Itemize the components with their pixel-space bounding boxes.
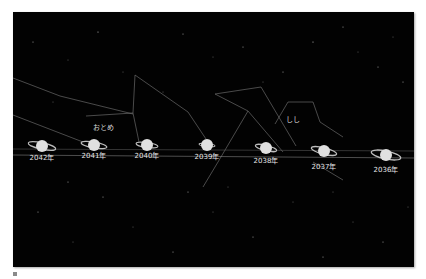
year-label-2040: 2040年 xyxy=(135,152,160,160)
constellation-lines xyxy=(13,75,343,187)
year-label-2041: 2041年 xyxy=(82,152,107,160)
year-label-2039: 2039年 xyxy=(195,153,220,161)
constellation-label-virgo: おとめ xyxy=(93,124,114,132)
caption-marker xyxy=(13,272,17,276)
sky-drawing xyxy=(13,12,414,267)
year-label-2038: 2038年 xyxy=(254,157,279,165)
year-label-2036: 2036年 xyxy=(374,166,399,174)
star-chart: おとめ しし 2042年 2041年 2040年 2039年 2038年 203… xyxy=(13,12,414,267)
constellation-label-leo: しし xyxy=(286,116,300,124)
year-label-2042: 2042年 xyxy=(30,154,55,162)
year-label-2037: 2037年 xyxy=(312,163,337,171)
